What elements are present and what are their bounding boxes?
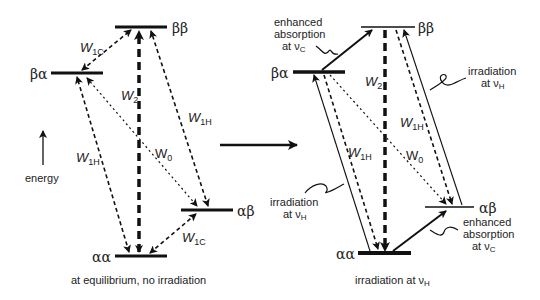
- svg-text:at νC: at νC: [472, 240, 496, 254]
- right-caption: irradiation at νH: [355, 274, 430, 288]
- w1h-left-label: W1H: [76, 150, 100, 167]
- right-panel: ββ βα αβ αα W2 W1H W1H W0 enhanced absor…: [270, 16, 516, 288]
- w1c-bottom-label: W1C: [182, 230, 206, 247]
- svg-text:absorption: absorption: [274, 28, 325, 40]
- left-panel: ββ βα αβ αα W1C W2 W1H W1H W0 W1C energy…: [25, 20, 255, 286]
- svg-text:at νH: at νH: [283, 208, 307, 222]
- w2-label-right: W2: [365, 74, 382, 91]
- squiggle-icon: [430, 227, 458, 235]
- svg-text:enhanced: enhanced: [463, 216, 511, 228]
- level-label-ba-left: βα: [30, 66, 48, 82]
- level-label-aa-right: αα: [336, 246, 355, 262]
- svg-text:at νC: at νC: [282, 40, 306, 54]
- svg-text:at νH: at νH: [481, 77, 505, 91]
- irradiation-right-line: [404, 30, 462, 205]
- squiggle-icon: [305, 184, 344, 193]
- svg-text:enhanced: enhanced: [274, 16, 322, 28]
- w0-arrow: [87, 78, 197, 206]
- irradiation-left-line: [314, 75, 370, 251]
- w1h-left-arrow-right: [324, 75, 378, 249]
- svg-text:irradiation: irradiation: [270, 196, 318, 208]
- level-label-ba-right: βα: [271, 65, 289, 81]
- level-label-bb-right: ββ: [418, 20, 434, 36]
- enhanced-absorption-bottom-arrow: [393, 211, 446, 251]
- squiggle-icon: [430, 75, 466, 90]
- w0-label-right: W0: [406, 148, 423, 165]
- level-label-ab-right: αβ: [479, 200, 497, 216]
- annotation-enhanced-top: enhanced absorption at νC: [274, 16, 338, 54]
- svg-text:irradiation: irradiation: [468, 65, 516, 77]
- squiggle-icon: [316, 46, 338, 54]
- level-label-bb-left: ββ: [172, 20, 188, 36]
- noe-energy-diagram: ββ βα αβ αα W1C W2 W1H W1H W0 W1C energy…: [0, 0, 540, 300]
- w1c-top-label: W1C: [80, 40, 104, 57]
- w1h-right-label-right: W1H: [400, 115, 424, 132]
- annotation-enhanced-bottom: enhanced absorption at νC: [430, 216, 514, 254]
- w0-arrow-right: [330, 75, 446, 204]
- annotation-irradiation-right: irradiation at νH: [430, 65, 516, 91]
- w1h-right-label: W1H: [188, 110, 212, 127]
- level-label-ab-left: αβ: [237, 203, 255, 219]
- svg-text:absorption: absorption: [463, 228, 514, 240]
- w0-label: W0: [155, 146, 172, 163]
- left-caption: at equilibrium, no irradiation: [71, 274, 206, 286]
- energy-label: energy: [25, 172, 59, 184]
- level-label-aa-left: αα: [92, 249, 111, 265]
- w2-label: W2: [121, 88, 138, 105]
- annotation-irradiation-left: irradiation at νH: [270, 184, 344, 222]
- w1h-left-label-right: W1H: [348, 145, 372, 162]
